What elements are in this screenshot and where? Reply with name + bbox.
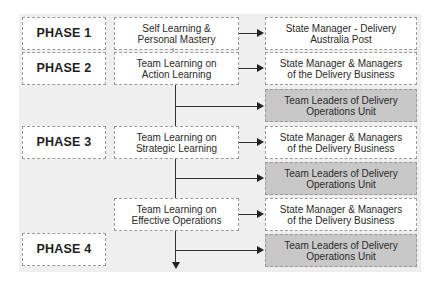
participant-box-6: State Manager & Managers of the Delivery… (265, 198, 417, 231)
participant-box-7: Team Leaders of Delivery Operations Unit (265, 234, 417, 267)
connector-2 (239, 68, 257, 69)
participant-4-line-1: State Manager & Managers (280, 132, 402, 143)
stage-4-line-2: Effective Operations (132, 215, 222, 226)
participant-box-2: State Manager & Managers of the Delivery… (265, 52, 417, 85)
connector-1 (239, 33, 257, 34)
arrow-right-icon (257, 138, 264, 146)
participant-3-line-2: Operations Unit (284, 106, 397, 117)
arrow-right-icon (257, 210, 264, 218)
stage-3-line-2: Strategic Learning (136, 143, 217, 154)
participant-box-4: State Manager & Managers of the Delivery… (265, 126, 417, 159)
arrow-down-icon (172, 262, 180, 269)
connector-3 (175, 106, 257, 107)
stage-effective-operations-box: Team Learning on Effective Operations (114, 198, 239, 231)
participant-4-line-2: of the Delivery Business (280, 143, 402, 154)
arrow-right-icon (257, 64, 264, 72)
phase-2-box: PHASE 2 (22, 52, 106, 85)
participant-7-line-2: Operations Unit (284, 251, 397, 262)
stage-strategic-learning-box: Team Learning on Strategic Learning (114, 126, 239, 159)
phase-3-box: PHASE 3 (22, 126, 106, 159)
connector-6 (239, 214, 257, 215)
participant-5-line-2: Operations Unit (284, 179, 397, 190)
stage-2-line-1: Team Learning on (136, 58, 216, 69)
connector-4 (239, 142, 257, 143)
participant-6-line-2: of the Delivery Business (280, 215, 402, 226)
stage-1-line-1: Self Learning & (138, 23, 216, 34)
stage-3-line-1: Team Learning on (136, 132, 217, 143)
participant-2-line-2: of the Delivery Business (280, 69, 402, 80)
arrow-right-icon (257, 102, 264, 110)
participant-3-line-1: Team Leaders of Delivery (284, 95, 397, 106)
stage-1-line-2: Personal Mastery (138, 34, 216, 45)
arrow-right-icon (257, 246, 264, 254)
participant-6-line-1: State Manager & Managers (280, 204, 402, 215)
participant-1-line-2: Australia Post (286, 34, 397, 45)
arrow-right-icon (257, 174, 264, 182)
phase-2-label: PHASE 2 (37, 63, 92, 74)
participant-5-line-1: Team Leaders of Delivery (284, 168, 397, 179)
phase-4-label: PHASE 4 (37, 244, 92, 255)
participant-box-1: State Manager - Delivery Australia Post (265, 17, 417, 50)
connector-5 (175, 178, 257, 179)
phase-1-box: PHASE 1 (22, 17, 106, 50)
stage-2-line-2: Action Learning (136, 69, 216, 80)
phase-4-box: PHASE 4 (22, 233, 106, 266)
phase-1-label: PHASE 1 (37, 28, 92, 39)
phase-3-label: PHASE 3 (37, 137, 92, 148)
participant-2-line-1: State Manager & Managers (280, 58, 402, 69)
stage-action-learning-box: Team Learning on Action Learning (114, 52, 239, 85)
stage-self-learning-box: Self Learning & Personal Mastery (114, 17, 239, 50)
stage-4-line-1: Team Learning on (132, 204, 222, 215)
participant-box-5: Team Leaders of Delivery Operations Unit (265, 162, 417, 195)
participant-1-line-1: State Manager - Delivery (286, 23, 397, 34)
spine-segment-3 (175, 231, 176, 263)
participant-box-3: Team Leaders of Delivery Operations Unit (265, 89, 417, 122)
connector-7 (175, 250, 257, 251)
arrow-right-icon (257, 29, 264, 37)
participant-7-line-1: Team Leaders of Delivery (284, 240, 397, 251)
